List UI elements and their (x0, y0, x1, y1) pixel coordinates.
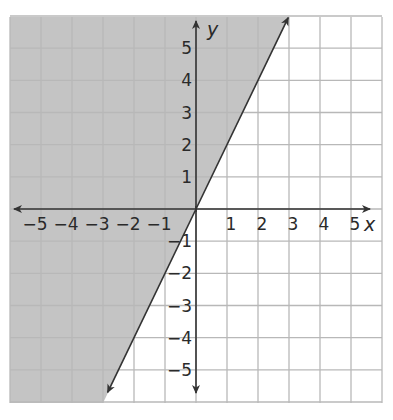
y-tick-label: 5 (181, 38, 192, 58)
y-tick-label: −4 (167, 328, 192, 348)
x-tick-label: 5 (350, 214, 361, 234)
y-tick-label: 2 (181, 135, 192, 155)
x-axis-label: x (363, 213, 376, 235)
shaded-region (10, 17, 289, 403)
x-tick-label: 4 (319, 214, 330, 234)
x-tick-label: 3 (288, 214, 299, 234)
x-tick-label: −3 (84, 214, 109, 234)
y-tick-label: 4 (181, 70, 192, 90)
x-tick-label: 2 (257, 214, 268, 234)
x-tick-label: −4 (53, 214, 78, 234)
x-tick-label: −2 (115, 214, 140, 234)
x-tick-label: −5 (22, 214, 47, 234)
y-axis-label: y (206, 18, 219, 40)
y-tick-label: 3 (181, 103, 192, 123)
y-tick-label: −3 (167, 296, 192, 316)
y-tick-label: −5 (167, 360, 192, 380)
y-tick-label: −1 (167, 231, 192, 251)
x-tick-label: 1 (226, 214, 237, 234)
y-tick-label: 1 (181, 167, 192, 187)
coordinate-plane: −5−4−3−2−11234554321−1−2−3−4−5 x y (0, 0, 393, 420)
shaded-polygon (10, 17, 289, 403)
y-tick-label: −2 (167, 263, 192, 283)
